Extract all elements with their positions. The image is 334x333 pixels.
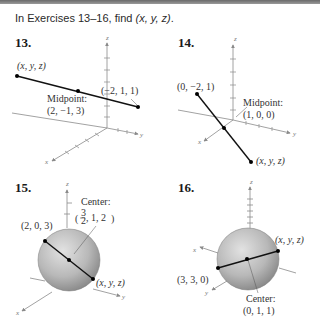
- endpoint-unknown-label: (x, y, z): [17, 60, 47, 72]
- midpoint-value: (2, −1, 3): [47, 105, 84, 117]
- center-value: ( 3 2 , 1, 2 ): [75, 207, 114, 226]
- center-value: (0, 1, 1): [243, 305, 275, 317]
- figure-13: z y x (x, y, z) (−2, 1, 1) Midpoint: (2,…: [12, 34, 144, 166]
- exercise-figures: z y x (x, y, z) (−2, 1, 1) Midpoint: (2,…: [0, 0, 334, 333]
- endpoint-unknown-dot: [276, 249, 280, 253]
- x-axis: [204, 120, 233, 141]
- endpoint-unknown-label: (x, y, z): [256, 155, 286, 167]
- y-axis: [233, 120, 290, 133]
- endpoint-known-dot: [216, 266, 220, 270]
- figure-15: z y x (2, 0, 3) Center: ( 3 2 , 1, 2 ) (…: [15, 180, 126, 317]
- center-dot: [67, 258, 71, 262]
- y-axis-negative: [178, 110, 233, 120]
- midpoint-value: (1, 0, 0): [243, 109, 275, 121]
- midpoint-title: Midpoint:: [47, 93, 87, 104]
- endpoint-known-label: (3, 3, 0): [177, 274, 209, 286]
- figure-14: z y x (0, −2, 1) Midpoint: (1, 0, 0) (x,…: [177, 35, 297, 167]
- endpoint-known-dot: [43, 239, 47, 243]
- y-axis-negative: [30, 278, 45, 281]
- x-axis-label: x: [15, 309, 20, 317]
- y-axis-label: y: [292, 130, 297, 138]
- endpoint-known-label: (−2, 1, 1): [101, 85, 138, 97]
- leader-line: [131, 99, 137, 105]
- x-axis: [52, 128, 107, 161]
- x-axis: [22, 292, 52, 311]
- endpoint-known-label: (0, −2, 1): [177, 81, 214, 93]
- endpoint-unknown-dot: [249, 160, 253, 164]
- endpoint-known-dot: [195, 92, 199, 96]
- z-axis-label: z: [105, 34, 109, 42]
- y-axis-label: y: [121, 293, 126, 301]
- endpoint-known-dot: [136, 105, 140, 109]
- center-title: Center:: [81, 196, 110, 207]
- y-axis-label: y: [139, 131, 144, 139]
- x-axis-label: x: [197, 138, 202, 146]
- endpoint-unknown-label: (x, y, z): [96, 277, 126, 289]
- endpoint-unknown-dot: [15, 74, 19, 78]
- x-axis-label: x: [192, 246, 197, 254]
- svg-text:(: (: [75, 213, 79, 225]
- endpoint-unknown-label: (x, y, z): [275, 234, 305, 246]
- z-axis-label: z: [233, 35, 237, 43]
- midpoint-title: Midpoint:: [243, 97, 283, 108]
- y-axis-label: y: [204, 289, 209, 297]
- center-title: Center:: [246, 293, 275, 304]
- endpoint-unknown-dot: [91, 277, 95, 281]
- svg-text:): ): [111, 213, 114, 225]
- midpoint-dot: [222, 126, 226, 130]
- y-axis: [93, 289, 120, 296]
- x-axis: [200, 247, 218, 253]
- x-axis-negative: [279, 268, 296, 273]
- z-axis-label: z: [249, 178, 253, 186]
- y-axis: [107, 128, 138, 134]
- endpoint-known-label: (2, 0, 3): [21, 220, 53, 232]
- axes-14: [178, 45, 290, 141]
- z-axis-label: z: [65, 180, 69, 188]
- center-dot: [245, 257, 249, 261]
- x-axis-label: x: [44, 158, 49, 166]
- center-rest: , 1, 2: [86, 212, 106, 223]
- figure-16: z x y (x, y, z) (3, 3, 0) Center: (0, 1,…: [177, 178, 305, 317]
